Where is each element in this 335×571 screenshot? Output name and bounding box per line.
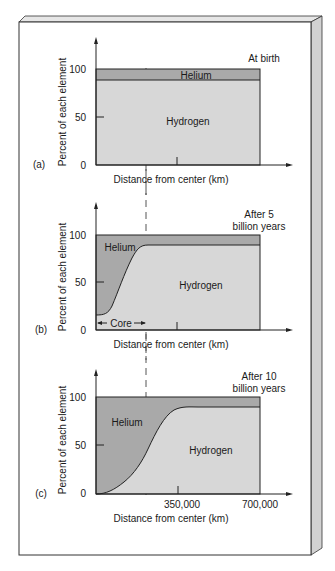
- y-axis-label: Percent of each element: [57, 386, 68, 495]
- y-tick-50: 50: [75, 277, 87, 288]
- y-tick-100: 100: [69, 64, 86, 75]
- y-tick-0: 0: [80, 160, 86, 171]
- y-tick-100: 100: [69, 392, 86, 403]
- panel-letter: (b): [35, 324, 47, 335]
- y-axis-label: Percent of each element: [57, 58, 68, 167]
- panel-title-line2: billion years: [233, 221, 286, 232]
- panel-title-line1: After 5: [244, 209, 274, 220]
- panel-title-line2: billion years: [233, 383, 286, 394]
- y-tick-0: 0: [80, 325, 86, 336]
- y-tick-50: 50: [75, 112, 87, 123]
- helium-label: Helium: [180, 70, 211, 81]
- core-label: Core: [110, 318, 132, 329]
- x-axis-label: Distance from center (km): [113, 513, 228, 524]
- x-tick-700000: 700,000: [242, 499, 279, 510]
- panel-letter: (a): [33, 159, 45, 170]
- panel-title-line1: After 10: [241, 371, 276, 382]
- helium-label: Helium: [104, 242, 135, 253]
- panel-letter: (c): [35, 488, 47, 499]
- panel-title: At birth: [248, 53, 280, 64]
- y-axis-label: Percent of each element: [57, 223, 68, 332]
- y-tick-100: 100: [69, 230, 86, 241]
- y-tick-0: 0: [80, 488, 86, 499]
- x-tick-350000: 350,000: [164, 499, 201, 510]
- hydrogen-label: Hydrogen: [166, 116, 209, 127]
- figure: 100 50 0 Helium Hydrogen At birth (a) Di…: [0, 0, 335, 571]
- hydrogen-label: Hydrogen: [189, 445, 232, 456]
- x-axis-label: Distance from center (km): [113, 339, 228, 350]
- hydrogen-label: Hydrogen: [179, 280, 222, 291]
- y-tick-50: 50: [75, 440, 87, 451]
- helium-label: Helium: [111, 417, 142, 428]
- x-axis-label: Distance from center (km): [113, 174, 228, 185]
